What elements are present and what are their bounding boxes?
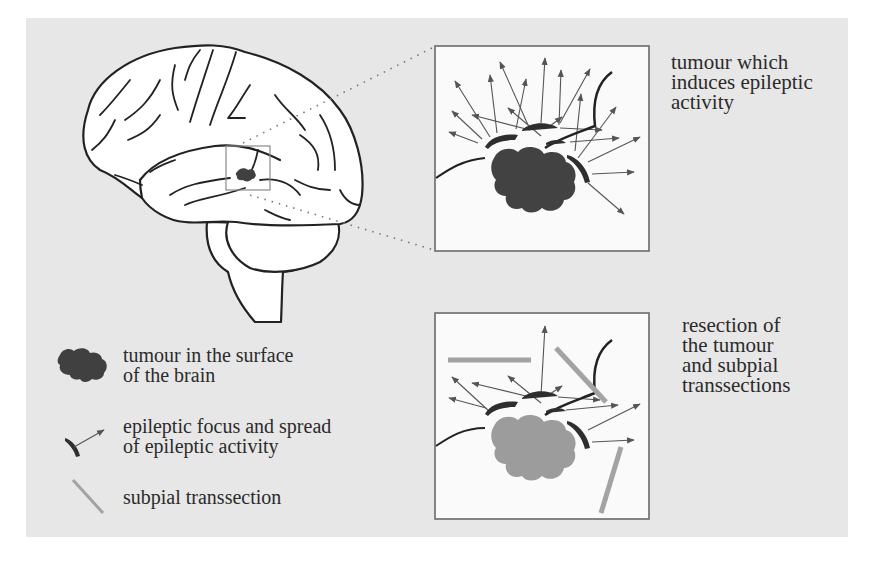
- upper-inset: [435, 46, 649, 251]
- lower-inset: [435, 313, 649, 519]
- legend-item-epileptic-focus: epileptic focus and spread of epileptic …: [123, 416, 331, 456]
- legend-item-tumour: tumour in the surface of the brain: [123, 345, 294, 385]
- upper-inset-caption: tumour which induces epileptic activity: [671, 52, 813, 112]
- cerebellum: [226, 222, 339, 272]
- tumour-blob-icon: [58, 348, 107, 382]
- legend-icons: [58, 348, 107, 513]
- lower-inset-caption: resection of the tumour and subpial tran…: [682, 315, 790, 395]
- cerebrum: [83, 45, 362, 225]
- subpial-transection-line-icon: [73, 480, 103, 513]
- brain-illustration: [83, 45, 362, 322]
- epileptic-focus-arrow-icon: [65, 430, 104, 457]
- legend-item-subpial-transection: subpial transsection: [123, 487, 281, 507]
